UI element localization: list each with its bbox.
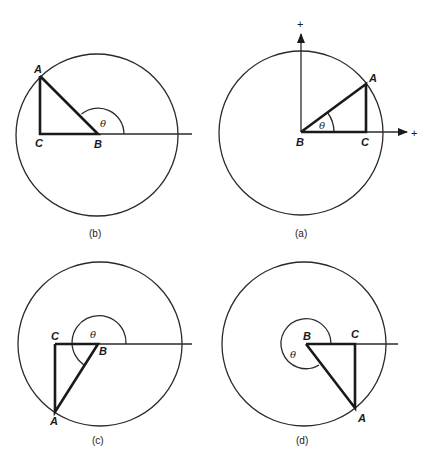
label-theta: θ: [90, 329, 96, 340]
label-a: A: [368, 72, 377, 84]
label-a: A: [357, 412, 366, 424]
theta-arc: [72, 316, 126, 365]
panel-a: + + A B C θ (a): [219, 18, 417, 239]
panel-d: B C A θ (d): [222, 262, 398, 446]
label-c: C: [35, 137, 44, 149]
panel-c: C B A θ (c): [18, 262, 192, 446]
y-plus-label: +: [297, 18, 303, 30]
triangle-abc: [40, 76, 98, 134]
label-b: B: [94, 138, 102, 150]
label-a: A: [49, 415, 58, 427]
label-theta: θ: [100, 118, 106, 129]
caption-c: (c): [92, 435, 104, 446]
trig-angle-diagram: A C B θ (b) + + A B C θ (a) C B A θ (c): [0, 0, 437, 464]
label-c: C: [51, 330, 60, 342]
caption-b: (b): [89, 228, 101, 239]
triangle-abc: [306, 344, 355, 408]
label-theta: θ: [319, 120, 325, 131]
label-a: A: [33, 63, 42, 75]
label-b: B: [99, 345, 107, 357]
x-plus-label: +: [411, 127, 417, 139]
label-c: C: [351, 328, 360, 340]
label-c: C: [361, 136, 370, 148]
label-b: B: [296, 136, 304, 148]
triangle-abc: [55, 344, 98, 412]
caption-d: (d): [296, 435, 308, 446]
label-theta: θ: [290, 349, 296, 360]
panel-b: A C B θ (b): [16, 54, 192, 239]
theta-arc: [328, 113, 335, 133]
label-b: B: [303, 330, 311, 342]
caption-a: (a): [295, 228, 307, 239]
